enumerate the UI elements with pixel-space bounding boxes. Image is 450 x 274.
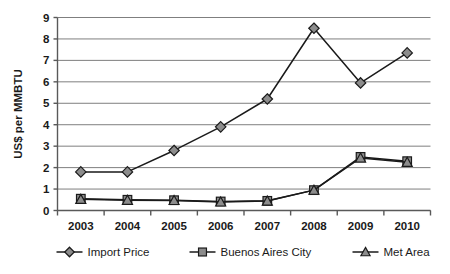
x-tick-label: 2008 [301,220,327,232]
y-tick-label: 0 [43,205,49,217]
y-tick-label: 4 [43,119,50,131]
legend-label: Buenos Aires City [221,246,312,258]
x-tick-label: 2009 [348,220,374,232]
chart-container: 0123456789 20032004200520062007200820092… [0,0,450,274]
legend-label: Import Price [88,246,150,258]
x-tick-label: 2003 [68,220,94,232]
x-tick-label: 2007 [255,220,281,232]
y-axis-title-text: US$ per MMBTU [12,69,24,158]
y-tick-label: 8 [43,33,50,45]
y-tick-label: 5 [43,97,50,109]
x-tick-label: 2010 [394,220,420,232]
y-tick-label: 6 [43,76,49,88]
y-tick-label: 9 [43,12,49,24]
x-tick-label: 2005 [161,220,187,232]
line-chart: 0123456789 20032004200520062007200820092… [0,0,450,274]
y-tick-label: 2 [43,162,49,174]
y-tick-label: 7 [43,54,49,66]
y-axis-title: US$ per MMBTU [12,69,24,158]
legend-label: Met Area [384,246,431,258]
legend-item-import-price[interactable]: Import Price [57,246,150,258]
chart-background [0,0,450,274]
y-tick-label: 1 [43,183,50,195]
x-tick-label: 2004 [115,220,141,232]
x-tick-label: 2006 [208,220,234,232]
y-tick-label: 3 [43,140,49,152]
data-point-marker-square [199,248,207,256]
